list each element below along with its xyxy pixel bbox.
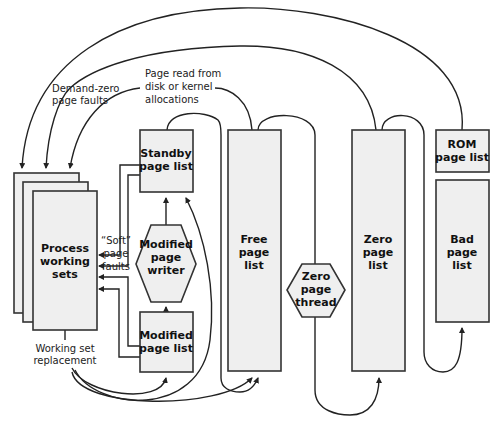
modified-label-1: Modified bbox=[139, 329, 193, 342]
process-working-sets-label-1: Process bbox=[41, 242, 90, 255]
page-list-diagram: Process working sets Standby page list M… bbox=[0, 0, 503, 432]
process-working-sets: Process working sets bbox=[14, 173, 97, 330]
free-label-3: list bbox=[244, 259, 263, 272]
page-read-line-2: disk or kernel bbox=[145, 81, 213, 92]
bad-label-2: page bbox=[447, 246, 478, 259]
demand-zero-line-1: Demand-zero bbox=[52, 83, 119, 94]
process-working-sets-label-3: sets bbox=[52, 268, 78, 281]
zero-list-label-1: Zero bbox=[364, 233, 393, 246]
zero-thread-label-1: Zero bbox=[302, 270, 331, 283]
modified-page-list: Modified page list bbox=[139, 312, 193, 372]
free-label-2: page bbox=[239, 246, 270, 259]
process-working-sets-label-2: working bbox=[40, 255, 90, 268]
demand-zero-line-2: page faults bbox=[52, 95, 108, 106]
bad-page-list: Bad page list bbox=[436, 180, 489, 322]
modified-label-2: page list bbox=[139, 342, 193, 355]
bad-label-3: list bbox=[452, 259, 471, 272]
bad-label-1: Bad bbox=[450, 233, 474, 246]
zero-list-label-3: list bbox=[368, 259, 387, 272]
free-page-list: Free page list bbox=[228, 130, 281, 371]
rom-label-1: ROM bbox=[448, 138, 477, 151]
standby-label-2: page list bbox=[139, 160, 193, 173]
zero-page-list: Zero page list bbox=[352, 130, 405, 371]
ws-replacement-line-1: Working set bbox=[35, 343, 94, 354]
free-label-1: Free bbox=[240, 233, 267, 246]
writer-label-3: writer bbox=[147, 264, 185, 277]
writer-label-2: page bbox=[151, 251, 182, 264]
annotation-demand-zero: Demand-zero page faults bbox=[52, 83, 119, 106]
writer-label-1: Modified bbox=[139, 238, 193, 251]
soft-faults-line-3: faults bbox=[102, 261, 130, 272]
arc-demand-zero bbox=[46, 46, 376, 168]
soft-faults-line-2: page bbox=[104, 248, 129, 259]
annotation-ws-replacement: Working set replacement bbox=[33, 343, 96, 366]
page-read-line-1: Page read from bbox=[145, 68, 221, 79]
rom-page-list: ROM page list bbox=[435, 130, 489, 172]
page-read-line-3: allocations bbox=[145, 94, 199, 105]
standby-page-list: Standby page list bbox=[139, 130, 193, 192]
modified-to-ws-2 bbox=[99, 289, 140, 357]
zero-page-thread: Zero page thread bbox=[287, 264, 345, 317]
zero-list-label-2: page bbox=[363, 246, 394, 259]
soft-faults-line-1: “Soft” bbox=[101, 235, 131, 246]
zero-thread-label-3: thread bbox=[295, 296, 336, 309]
zero-thread-label-2: page bbox=[301, 283, 332, 296]
rom-label-2: page list bbox=[435, 151, 489, 164]
ws-replacement-line-2: replacement bbox=[33, 355, 96, 366]
standby-label-1: Standby bbox=[140, 147, 191, 160]
annotation-page-read: Page read from disk or kernel allocation… bbox=[145, 68, 221, 105]
modified-page-writer: Modified page writer bbox=[136, 225, 196, 302]
annotation-soft-faults: “Soft” page faults bbox=[101, 235, 131, 272]
